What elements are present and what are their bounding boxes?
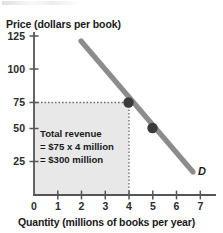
- total-revenue-annotation: Total revenue = $75 x 4 million = $300 m…: [40, 127, 114, 167]
- x-tick-label-6: 6: [171, 200, 183, 212]
- plot-area: [0, 0, 223, 233]
- y-tick-label-125: 125: [3, 30, 25, 42]
- y-tick-label-50: 50: [3, 122, 25, 134]
- data-point-4-75: [123, 97, 133, 107]
- x-tick-label-4: 4: [123, 200, 135, 212]
- x-tick-label-5: 5: [147, 200, 159, 212]
- x-tick-label-7: 7: [194, 200, 206, 212]
- y-tick-label-25: 25: [3, 155, 25, 167]
- y-tick-label-75: 75: [3, 96, 25, 108]
- total-revenue-line-2: = $75 x 4 million: [40, 140, 114, 153]
- x-tick-label-0: 0: [28, 200, 40, 212]
- x-tick-label-3: 3: [99, 200, 111, 212]
- demand-curve-label: D: [198, 165, 206, 177]
- total-revenue-line-3: = $300 million: [40, 153, 114, 166]
- total-revenue-line-1: Total revenue: [40, 127, 114, 140]
- demand-curve-figure: Price (dollars per book): [0, 0, 223, 233]
- x-axis-title: Quantity (millions of books per year): [18, 216, 195, 228]
- y-tick-label-100: 100: [3, 63, 25, 75]
- x-tick-label-2: 2: [76, 200, 88, 212]
- x-tick-label-1: 1: [52, 200, 64, 212]
- data-point-5-50: [147, 123, 157, 133]
